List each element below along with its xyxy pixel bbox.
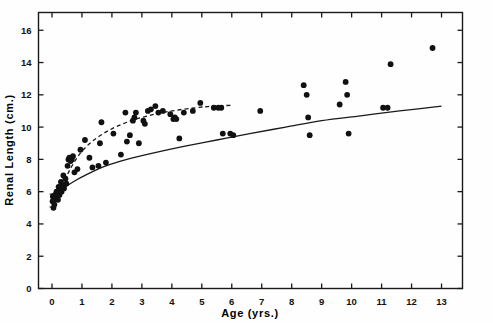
lower-reference-curve bbox=[52, 106, 442, 196]
data-point bbox=[103, 160, 109, 166]
data-point bbox=[111, 131, 117, 137]
data-point bbox=[337, 102, 343, 108]
x-tick-label: 1 bbox=[79, 296, 85, 307]
x-tick-label: 11 bbox=[377, 296, 388, 307]
data-point bbox=[75, 166, 81, 172]
y-tick-label: 8 bbox=[26, 154, 31, 165]
data-point bbox=[133, 110, 139, 116]
data-point bbox=[142, 121, 148, 127]
data-point bbox=[87, 155, 93, 161]
x-axis-title: Age (yrs.) bbox=[221, 307, 279, 319]
y-tick-label: 2 bbox=[26, 251, 31, 262]
data-point bbox=[218, 105, 224, 111]
renal-length-scatter-figure: 012345678910111213 0246810121416 Age (yr… bbox=[0, 0, 493, 323]
data-point bbox=[136, 140, 142, 146]
y-tick-label: 16 bbox=[21, 25, 32, 36]
x-tick-label: 4 bbox=[169, 296, 175, 307]
data-point bbox=[63, 181, 69, 187]
data-point bbox=[176, 135, 182, 141]
data-point bbox=[123, 110, 129, 116]
axis-ticks bbox=[39, 13, 463, 289]
x-tick-label: 8 bbox=[289, 296, 294, 307]
data-point bbox=[65, 163, 71, 169]
plot-frame bbox=[39, 13, 463, 289]
y-tick-label: 10 bbox=[21, 122, 32, 133]
x-tick-label: 9 bbox=[319, 296, 324, 307]
data-point bbox=[96, 163, 102, 169]
data-point bbox=[197, 100, 203, 106]
data-point bbox=[305, 115, 311, 121]
data-point bbox=[124, 139, 130, 145]
data-point bbox=[160, 108, 166, 114]
x-tick-label: 2 bbox=[109, 296, 114, 307]
x-tick-label: 5 bbox=[199, 296, 205, 307]
x-tick-labels: 012345678910111213 bbox=[49, 296, 446, 307]
x-tick-label: 10 bbox=[346, 296, 357, 307]
y-axis-title: Renal Length (cm.) bbox=[3, 94, 15, 206]
x-tick-label: 13 bbox=[436, 296, 447, 307]
data-point bbox=[304, 92, 310, 98]
data-point bbox=[90, 165, 96, 171]
data-point bbox=[220, 131, 226, 137]
data-point bbox=[63, 176, 69, 182]
data-point bbox=[70, 153, 76, 159]
y-tick-label: 4 bbox=[26, 218, 32, 229]
data-point bbox=[307, 132, 313, 138]
data-point bbox=[181, 110, 187, 116]
data-point bbox=[97, 140, 103, 146]
data-point bbox=[78, 147, 84, 153]
data-point bbox=[385, 105, 391, 111]
data-point bbox=[257, 108, 263, 114]
data-point bbox=[99, 119, 105, 125]
data-point bbox=[127, 132, 133, 138]
data-point bbox=[344, 92, 350, 98]
x-tick-label: 12 bbox=[406, 296, 417, 307]
x-tick-label: 7 bbox=[259, 296, 264, 307]
data-point bbox=[388, 61, 394, 67]
data-point bbox=[430, 45, 436, 51]
data-point bbox=[346, 131, 352, 137]
x-tick-label: 0 bbox=[49, 296, 54, 307]
y-tick-labels: 0246810121416 bbox=[21, 25, 32, 294]
y-tick-label: 12 bbox=[21, 89, 32, 100]
x-tick-label: 6 bbox=[229, 296, 234, 307]
data-point bbox=[230, 132, 236, 138]
y-tick-label: 0 bbox=[26, 283, 31, 294]
data-point bbox=[51, 202, 57, 208]
y-tick-label: 14 bbox=[21, 57, 32, 68]
y-tick-label: 6 bbox=[26, 186, 31, 197]
data-point bbox=[173, 116, 179, 122]
data-point bbox=[301, 82, 307, 88]
upper-reference-curve bbox=[59, 105, 231, 193]
scatter-points bbox=[50, 45, 436, 211]
data-point bbox=[152, 103, 158, 109]
data-point bbox=[82, 137, 88, 143]
x-tick-label: 3 bbox=[139, 296, 144, 307]
data-point bbox=[190, 108, 196, 114]
chart-svg: 012345678910111213 0246810121416 Age (yr… bbox=[0, 0, 493, 323]
data-point bbox=[118, 152, 124, 158]
data-point bbox=[343, 79, 349, 85]
